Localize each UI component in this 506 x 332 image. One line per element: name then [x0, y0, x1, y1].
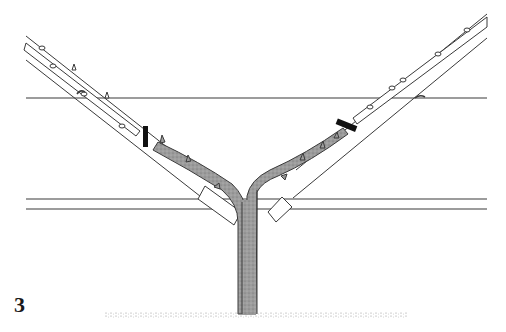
ground: [105, 312, 407, 318]
left-cut-mark: [143, 126, 148, 147]
right-crossbar: [268, 197, 292, 222]
figure-number: 3: [14, 294, 25, 316]
right-cane: [353, 17, 487, 124]
vine-trellis-diagram: [0, 0, 506, 332]
vine-trunk: [153, 128, 348, 314]
left-cane: [24, 43, 140, 136]
